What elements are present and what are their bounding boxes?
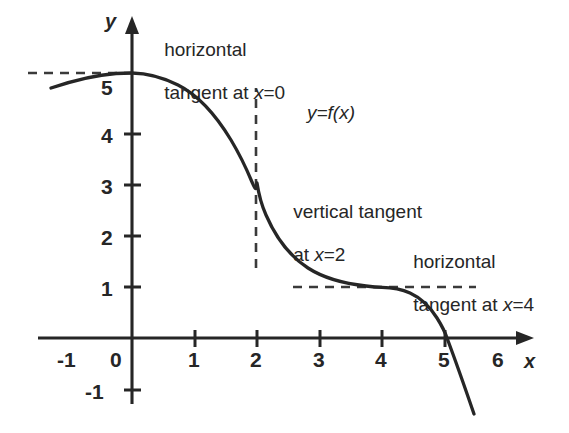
x-tick-label-5: 5 (438, 348, 450, 372)
x-tick-label-3: 3 (313, 348, 325, 372)
y-tick-label-2: 2 (101, 226, 113, 250)
y-axis-label: y (105, 10, 116, 32)
annotation-horizontal-tangent-x0: horizontal tangent at x=0 (143, 18, 285, 124)
function-label: y=f(x) (307, 102, 355, 123)
annotation-vertical-tangent-x2-line1: vertical tangent (293, 201, 422, 222)
graph-figure: -1 0 1 2 3 4 5 6 x 1 2 3 4 5 -1 y y=f(x)… (0, 0, 569, 433)
x-tick-label-1: 1 (188, 348, 200, 372)
x-tick-label-2: 2 (250, 348, 262, 372)
annotation-horizontal-tangent-x4: horizontal tangent at x=4 (392, 230, 534, 336)
y-tick-label-5: 5 (101, 76, 113, 100)
annotation-horizontal-tangent-x0-line1: horizontal (164, 39, 246, 60)
x-axis-label: x (524, 350, 535, 372)
y-tick-label-3: 3 (101, 175, 113, 199)
x-tick-label-6: 6 (492, 348, 504, 372)
y-tick-label-1: 1 (101, 277, 113, 301)
annotation-horizontal-tangent-x4-line2: tangent at x=4 (413, 294, 534, 315)
annotation-horizontal-tangent-x4-line1: horizontal (413, 251, 495, 272)
x-tick-label-0: 0 (110, 348, 122, 372)
x-tick-label-4: 4 (375, 348, 387, 372)
y-tick-label--1: -1 (85, 380, 104, 404)
annotation-horizontal-tangent-x0-line2: tangent at x=0 (164, 82, 285, 103)
y-tick-label-4: 4 (101, 124, 113, 148)
x-tick-label--1: -1 (57, 348, 76, 372)
annotation-vertical-tangent-x2-line2: at x=2 (293, 244, 345, 265)
